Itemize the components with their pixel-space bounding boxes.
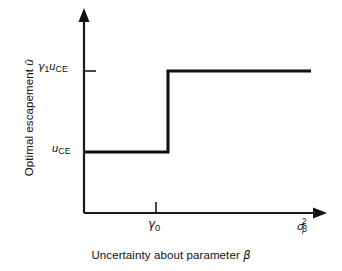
u-subscript-ce: CE: [55, 64, 68, 74]
x-axis-tick-label-gamma0: γ0: [148, 218, 160, 233]
y-axis-title-text: Optimal escapement: [23, 66, 35, 177]
u-hat-symbol: û: [23, 59, 35, 66]
beta-symbol: β: [243, 248, 250, 262]
x-axis-title: Uncertainty about parameter β: [0, 250, 342, 262]
y-axis-tick-label-gamma1-uce: γ1uCE: [38, 61, 68, 74]
u-subscript-ce: CE: [58, 146, 71, 156]
y-axis-tick-label-uce: uCE: [52, 143, 71, 156]
sigma-stacked-symbol: σ 2 β: [297, 219, 309, 230]
sigma-subscript-beta: β: [302, 225, 307, 233]
chart-plot-area: [0, 0, 342, 271]
figure-container: γ1uCE uCE γ0 σ 2 β Uncertainty about par…: [0, 0, 342, 271]
x-axis-title-text: Uncertainty about parameter: [91, 249, 243, 261]
x-axis-arrow-icon: [313, 208, 327, 219]
x-axis-end-label-sigma-beta-squared: σ 2 β: [297, 219, 309, 232]
gamma-subscript: 0: [155, 223, 160, 233]
step-function-curve: [84, 71, 311, 152]
y-axis-title: Optimal escapement û: [24, 28, 36, 208]
y-axis-arrow-icon: [79, 8, 90, 22]
